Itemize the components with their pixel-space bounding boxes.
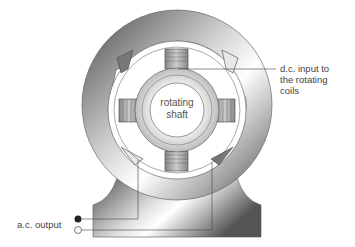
- alternator-diagram: [0, 0, 355, 247]
- shaft-label-line1: rotating: [150, 97, 204, 109]
- dc-input-line2: the rotating: [280, 74, 329, 85]
- shaft-label-line2: shaft: [150, 109, 204, 121]
- dc-input-line3: coils: [280, 85, 329, 96]
- ac-output-label: a.c. output: [17, 219, 61, 230]
- ac-terminal-filled: [75, 216, 82, 223]
- ac-terminal-open: [75, 227, 82, 234]
- dc-input-line1: d.c. input to: [280, 63, 329, 74]
- dc-input-label: d.c. input to the rotating coils: [280, 63, 329, 96]
- shaft-label: rotating shaft: [150, 97, 204, 121]
